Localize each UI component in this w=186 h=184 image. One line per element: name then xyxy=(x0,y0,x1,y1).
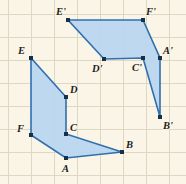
vertex-point-B-prime xyxy=(158,115,162,119)
vertex-point-D xyxy=(64,95,68,99)
vertex-point-B xyxy=(120,150,124,154)
vertex-label-F: F xyxy=(16,123,24,134)
vertex-label-B-prime: B' xyxy=(162,120,173,131)
vertex-label-A-prime: A' xyxy=(162,45,173,56)
vertex-label-E-prime: E' xyxy=(55,6,66,17)
vertex-label-C: C xyxy=(70,122,78,133)
vertex-point-D-prime xyxy=(102,57,106,61)
vertex-label-D: D xyxy=(69,84,78,95)
vertex-point-A xyxy=(64,156,68,160)
vertex-point-F-prime xyxy=(141,18,145,22)
geometry-figure: EDCBAFE'F'A'B'C'D' xyxy=(0,0,186,184)
vertex-label-A: A xyxy=(61,163,69,174)
vertex-point-F xyxy=(29,133,33,137)
vertex-point-C-prime xyxy=(141,56,145,60)
figure-canvas: EDCBAFE'F'A'B'C'D' xyxy=(0,0,186,184)
vertex-label-E: E xyxy=(17,45,25,56)
vertex-point-E-prime xyxy=(66,18,70,22)
vertex-label-B: B xyxy=(125,139,133,150)
vertex-point-E xyxy=(29,56,33,60)
vertex-label-C-prime: C' xyxy=(132,62,142,73)
vertex-point-C xyxy=(64,132,68,136)
vertex-label-F-prime: F' xyxy=(145,6,156,17)
vertex-label-D-prime: D' xyxy=(91,63,103,74)
vertex-point-A-prime xyxy=(158,56,162,60)
